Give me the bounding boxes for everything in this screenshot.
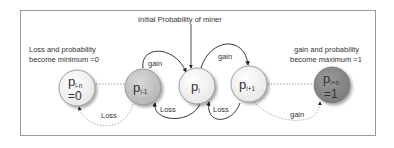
node-value: =1 <box>324 87 338 101</box>
node-base: p <box>191 79 198 94</box>
gain-label-right: gain <box>218 52 232 61</box>
loss-label-bottom: Loss <box>101 111 117 120</box>
annotation-left-line1: Loss and probability <box>29 45 96 54</box>
node-subscript: i-1 <box>140 88 148 95</box>
node-p-i-plus-n: pi+n =1 <box>314 67 350 103</box>
node-base: p <box>323 71 330 86</box>
node-p-i-minus-n: pi-n =0 <box>59 70 95 106</box>
annotation-right: gain and probability become maximum =1 <box>290 45 362 64</box>
node-subscript: i+n <box>330 79 339 86</box>
node-subscript: i+1 <box>246 85 255 92</box>
annotation-right-line2: become maximum =1 <box>290 55 362 64</box>
node-p-i-minus-1: pi-1 <box>125 69 161 105</box>
node-base: p <box>239 77 246 92</box>
probability-state-diagram: Initial Probability of miner Loss and pr… <box>0 0 394 148</box>
title-label: Initial Probability of miner <box>138 15 222 24</box>
node-base: p <box>68 74 75 89</box>
node-subscript: i <box>198 87 199 94</box>
node-p-i: pi <box>179 68 215 104</box>
annotation-left: Loss and probability become minimum =0 <box>29 45 99 64</box>
node-value: =0 <box>68 89 82 103</box>
node-subscript: i-n <box>75 82 83 89</box>
node-base: p <box>133 80 140 95</box>
annotation-left-line2: become minimum =0 <box>29 55 99 64</box>
node-p-i-plus-1: pi+1 <box>231 66 267 102</box>
loss-label-right: Loss <box>213 105 229 114</box>
gain-label-left: gain <box>148 59 162 68</box>
loss-label-left: Loss <box>160 105 176 114</box>
annotation-right-line1: gain and probability <box>294 45 359 54</box>
gain-label-bottom: gain <box>290 110 304 119</box>
